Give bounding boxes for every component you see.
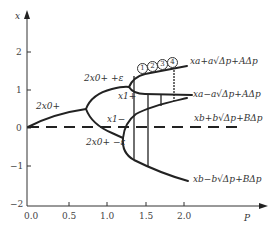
label-2x0: 2x0+	[36, 102, 60, 111]
y-tick-1: 1	[16, 86, 22, 95]
label-x1-plus: x1+	[118, 92, 136, 101]
y-tick-0: 0	[16, 124, 22, 133]
label-xa-plus: xa+a√Δp+AΔp	[190, 57, 258, 66]
label-xb-plus: xb+b√Δp+BΔp	[194, 114, 263, 123]
y-axis-arrow-icon	[24, 10, 30, 19]
x-tick-0: 0.0	[24, 212, 38, 221]
y-tick-neg1: −1	[10, 162, 23, 171]
label-xb-minus: xb−b√Δp+BΔp	[193, 175, 262, 184]
x-tick-05: 0.5	[62, 212, 76, 221]
label-2x0-plus-eps: 2x0+ +ε	[84, 74, 123, 83]
label-x1-minus: x1−	[107, 115, 125, 124]
x-tick-15: 1.5	[139, 212, 153, 221]
label-2x0-minus-eps: 2x0+ −ε	[86, 138, 125, 147]
label-xa-minus: xa−a√Δp+AΔp	[193, 90, 261, 99]
branch-xb-minus	[123, 138, 188, 181]
branch-2x0	[28, 109, 86, 127]
x-axis-arrow-icon	[259, 203, 268, 209]
transition-lines	[134, 70, 174, 166]
x-tick-2: 2.0	[177, 212, 191, 221]
branch-xa-minus	[129, 87, 192, 95]
marker-4: 4	[167, 57, 178, 68]
x-tick-1: 1.0	[100, 212, 114, 221]
y-tick-2: 2	[16, 48, 22, 57]
branch-xb-plus	[123, 98, 187, 138]
x-axis-label: P	[244, 214, 250, 223]
y-tick-neg2: −2	[10, 200, 23, 209]
y-axis-label: x	[15, 12, 20, 21]
